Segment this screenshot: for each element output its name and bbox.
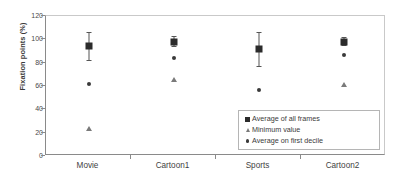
dot-marker-icon	[243, 139, 252, 143]
data-point-triangle	[86, 126, 92, 131]
y-tick-label: 0	[19, 152, 43, 159]
y-tick-label: 40	[19, 105, 43, 112]
y-tick-label: 120	[19, 12, 43, 19]
y-tick-label: 20	[19, 128, 43, 135]
data-point-square	[340, 38, 347, 45]
x-tick-mark	[130, 155, 131, 159]
y-tick-label: 100	[19, 35, 43, 42]
legend-label: Average on first decile	[252, 136, 323, 146]
legend-item: Average on first decile	[243, 136, 375, 146]
error-bar-cap	[86, 60, 91, 61]
legend-glyph-shape	[245, 117, 250, 122]
fixation-points-chart: Fixation points (%) 020406080100120 Movi…	[0, 0, 395, 179]
error-bar-cap	[171, 46, 176, 47]
data-point-triangle	[171, 77, 177, 82]
y-tick-label: 60	[19, 82, 43, 89]
data-point-dot	[342, 53, 346, 57]
x-category-label: Cartoon1	[128, 161, 218, 170]
data-point-square	[255, 45, 262, 52]
error-bar-cap	[171, 36, 176, 37]
x-category-label: Sports	[213, 161, 303, 170]
legend-label: Minimum value	[252, 125, 300, 135]
y-tick-mark	[41, 155, 45, 156]
legend-glyph-shape	[246, 128, 250, 132]
x-category-label: Cartoon2	[298, 161, 388, 170]
data-point-square	[170, 38, 177, 45]
triangle-marker-icon	[243, 128, 252, 132]
legend-label: Average of all frames	[252, 114, 320, 124]
data-point-square	[85, 43, 92, 50]
legend-item: Average of all frames	[243, 114, 375, 124]
error-bar-cap	[256, 66, 261, 67]
x-tick-mark	[215, 155, 216, 159]
data-point-dot	[172, 56, 176, 60]
legend-glyph-shape	[246, 139, 250, 143]
x-tick-mark	[300, 155, 301, 159]
legend-item: Minimum value	[243, 125, 375, 135]
error-bar-cap	[256, 32, 261, 33]
data-point-triangle	[341, 82, 347, 87]
error-bar-cap	[341, 45, 346, 46]
square-marker-icon	[243, 117, 252, 122]
data-point-dot	[257, 88, 261, 92]
chart-legend: Average of all framesMinimum valueAverag…	[238, 110, 380, 150]
y-tick-label: 80	[19, 58, 43, 65]
x-category-label: Movie	[43, 161, 133, 170]
error-bar-cap	[86, 32, 91, 33]
data-point-dot	[87, 82, 91, 86]
